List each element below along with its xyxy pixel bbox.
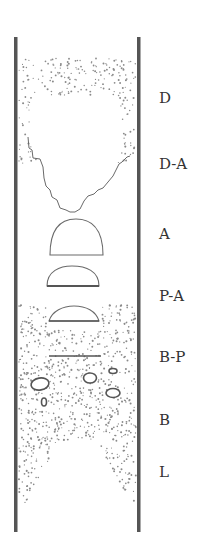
column-left-wall xyxy=(14,37,18,532)
dense-void-outline xyxy=(28,137,130,212)
region-label-p-a: P-A xyxy=(159,289,184,304)
column-right-wall xyxy=(137,37,141,532)
region-label-b-p: B-P xyxy=(159,350,185,365)
bubble-pa-cap xyxy=(47,266,99,286)
flow-regime-diagram xyxy=(0,0,211,551)
region-label-d-a: D-A xyxy=(159,157,187,172)
bubble-a-cap xyxy=(50,219,103,255)
region-label-b: B xyxy=(159,413,170,428)
region-label-a: A xyxy=(159,227,170,242)
region-label-l: L xyxy=(159,465,169,480)
bubble-bp-cap xyxy=(49,306,99,321)
region-label-d: D xyxy=(159,91,171,106)
